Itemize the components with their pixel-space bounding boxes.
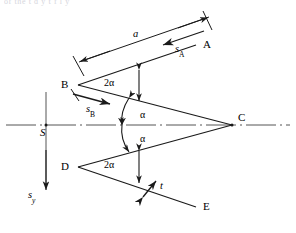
angle-label-2alpha-top: 2α [104, 78, 114, 88]
point-label-c: C [238, 112, 245, 123]
sB-vector-arrow [73, 94, 110, 104]
point-label-a: A [203, 39, 211, 50]
engineering-diagram: of the t d y t f l y [0, 0, 296, 233]
dimension-label-a: a [133, 29, 138, 40]
point-label-d: D [61, 161, 69, 172]
segment-c-to-d [78, 125, 232, 167]
point-label-b: B [61, 79, 68, 90]
angle-label-alpha-lower: α [140, 134, 145, 144]
dimension-label-t: t [160, 181, 163, 192]
segment-b-to-c [78, 85, 232, 125]
thickness-t-arrow [143, 181, 156, 197]
point-label-e: E [203, 201, 210, 212]
angle-label-alpha-upper: α [140, 110, 145, 120]
sA-vector-arrow [163, 31, 204, 45]
vector-label-sB: sB [86, 104, 95, 117]
vertex-c-node [231, 124, 234, 127]
dimension-a-right-tick [203, 11, 212, 30]
diagram-canvas [0, 0, 296, 233]
angle-alpha-upper-arc [122, 98, 129, 125]
dimension-a-right-arrow [178, 18, 208, 29]
segment-d-to-e [78, 167, 196, 207]
vector-sB-subscript: B [90, 110, 95, 119]
angle-alpha-lower-arc [122, 125, 129, 152]
point-label-s: S [40, 127, 46, 138]
vector-sA-subscript: A [179, 50, 184, 59]
vector-sy-subscript: y [32, 196, 35, 205]
dimension-a-left-arrow [80, 51, 110, 62]
vector-label-sy: sy [28, 190, 35, 203]
vector-label-sA: sA [175, 44, 185, 57]
dimension-a-left-tick [73, 56, 84, 76]
angle-label-2alpha-bottom: 2α [104, 160, 114, 170]
